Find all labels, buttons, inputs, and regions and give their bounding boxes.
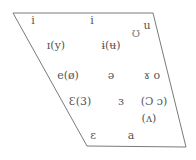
vowel-label-open-mid-central: ɜ	[118, 96, 124, 107]
vowel-chart-outline	[0, 0, 196, 160]
vowel-label-mid-central: ə	[108, 70, 115, 81]
vowel-label-near-open-front: ε	[90, 130, 96, 141]
vowel-label-high-central: i	[90, 15, 94, 26]
vowel-label-high-back: u	[143, 20, 150, 31]
vowel-label-near-high-back: Ʊ	[132, 28, 140, 39]
vowel-label-mid-front: e(ø)	[57, 70, 79, 81]
vowel-label-open-mid-front: Ɛ(3)	[69, 96, 91, 107]
vowel-label-open-mid-back-unrounded: (ʌ)	[142, 113, 157, 124]
vowel-label-mid-back: ɤ o	[144, 70, 160, 81]
vowel-label-near-high-central: ɨ(ʉ)	[101, 40, 120, 51]
vowel-label-open-mid-back: (Ɔ ɔ)	[141, 96, 168, 107]
vowel-label-high-front: i	[31, 15, 35, 26]
vowel-label-near-high-front: ɪ(y)	[47, 40, 65, 51]
vowel-label-open-central: a	[128, 130, 135, 141]
